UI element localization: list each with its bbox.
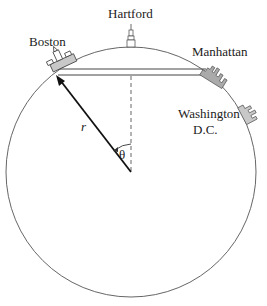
hartford-building-icon xyxy=(127,24,135,47)
angle-label: θ xyxy=(119,147,125,162)
earth-diagram: Boston Hartford Manhattan Washington D.C… xyxy=(0,0,267,306)
chord-line xyxy=(58,69,206,75)
manhattan-skyline-icon xyxy=(200,62,230,88)
hartford-label: Hartford xyxy=(108,6,153,21)
washington-building-icon xyxy=(238,101,259,124)
manhattan-label: Manhattan xyxy=(192,44,248,59)
radius-label: r xyxy=(81,119,87,134)
washington-label-line1: Washington xyxy=(178,106,240,121)
boston-label: Boston xyxy=(29,34,66,49)
washington-label-line2: D.C. xyxy=(193,122,218,137)
